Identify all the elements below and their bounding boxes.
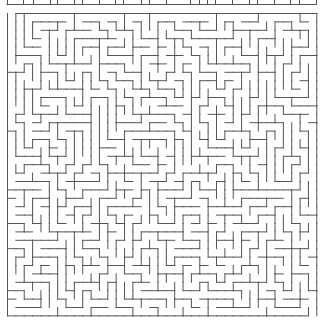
maze-svg	[0, 0, 323, 322]
maze-walls	[8, 14, 317, 316]
maze-canvas	[0, 0, 323, 322]
previous-maze-bottom-strip	[7, 0, 317, 5]
